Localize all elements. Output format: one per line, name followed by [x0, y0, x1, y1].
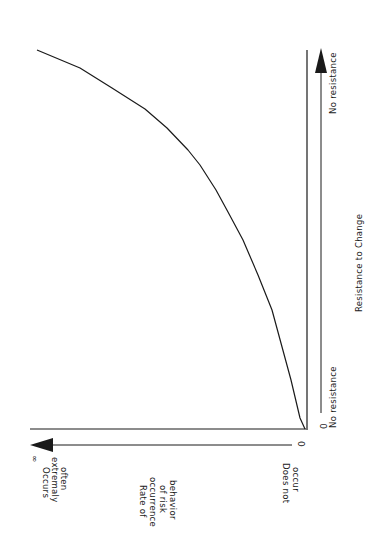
rate-start-label-line2: occur: [291, 467, 301, 492]
rate-end-label-line2: extremaly: [50, 457, 60, 503]
rate-title-line4: behavior: [168, 480, 178, 520]
rate-title-line2: occurrence: [148, 477, 158, 527]
resistance-start-label: No resistance: [328, 366, 338, 428]
rate-end-tick: ∞: [30, 455, 40, 462]
resistance-axis-title: Resistance to Change: [354, 214, 364, 312]
risk-curve: [37, 50, 305, 429]
resistance-end-label: No resistance: [328, 52, 338, 114]
rate-zero-tick: 0: [296, 441, 306, 447]
rate-end-label-line3: often: [59, 467, 69, 491]
rate-arrowhead-icon: [30, 438, 53, 452]
rate-start-label-line1: Does not: [281, 463, 291, 504]
rate-end-label-line1: Occurs: [41, 467, 51, 498]
rate-title-line3: of risk: [158, 485, 168, 513]
rate-title-line1: Rate of: [138, 485, 148, 518]
resistance-arrowhead-icon: [315, 48, 327, 73]
risk-behavior-chart: ∞ Occurs extremaly often Rate of occurre…: [0, 0, 374, 538]
